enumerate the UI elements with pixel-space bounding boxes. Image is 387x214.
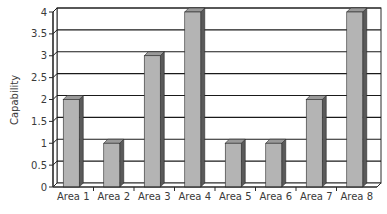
bar [185,8,205,187]
bar [104,139,124,187]
bar-top [347,8,367,12]
bar [144,52,164,187]
bar-top [306,96,326,100]
bar [63,96,83,188]
bar-top [266,139,286,143]
bar-top [144,52,164,56]
x-tick-label: Area 3 [138,191,171,202]
y-tick-label: 2.5 [31,72,47,83]
bar [347,8,367,187]
y-axis-title: Capability [9,75,20,125]
y-tick-label: 3.5 [31,28,47,39]
bar-side [120,139,124,187]
bar [266,139,286,187]
bar-front [347,12,363,187]
bar-side [363,8,367,187]
bar-front [63,100,79,188]
x-tick-label: Area 4 [178,191,211,202]
bar-front [104,143,120,187]
bar-top [185,8,205,12]
y-tick-label: 2 [41,94,47,105]
bar-front [266,143,282,187]
bar [225,139,245,187]
bar-front [144,56,160,187]
y-tick-label: 4 [41,7,47,18]
x-tick-label: Area 8 [340,191,373,202]
bar-top [104,139,124,143]
bar-side [79,96,83,188]
plot-area [53,8,381,187]
y-tick-label: 0.5 [31,160,47,171]
bar-side [160,52,164,187]
y-tick-label: 1 [41,138,47,149]
y-axis: 00.511.522.533.54 [31,7,53,193]
x-tick-label: Area 5 [219,191,252,202]
bar-side [241,139,245,187]
bar-side [201,8,205,187]
y-tick-label: 3 [41,50,47,61]
x-tick-label: Area 6 [259,191,292,202]
bar [306,96,326,188]
bar-top [225,139,245,143]
x-tick-label: Area 1 [57,191,90,202]
bar-front [185,12,201,187]
x-axis: Area 1Area 2Area 3Area 4Area 5Area 6Area… [53,187,377,202]
y-tick-label: 1.5 [31,116,47,127]
bar-top [63,96,83,100]
bar-side [282,139,286,187]
y-tick-label: 0 [41,182,47,193]
x-tick-label: Area 7 [300,191,333,202]
bar-side [322,96,326,188]
bar-chart: 00.511.522.533.54 Area 1Area 2Area 3Area… [0,0,387,214]
bar-front [306,100,322,188]
x-tick-label: Area 2 [97,191,130,202]
bar-front [225,143,241,187]
